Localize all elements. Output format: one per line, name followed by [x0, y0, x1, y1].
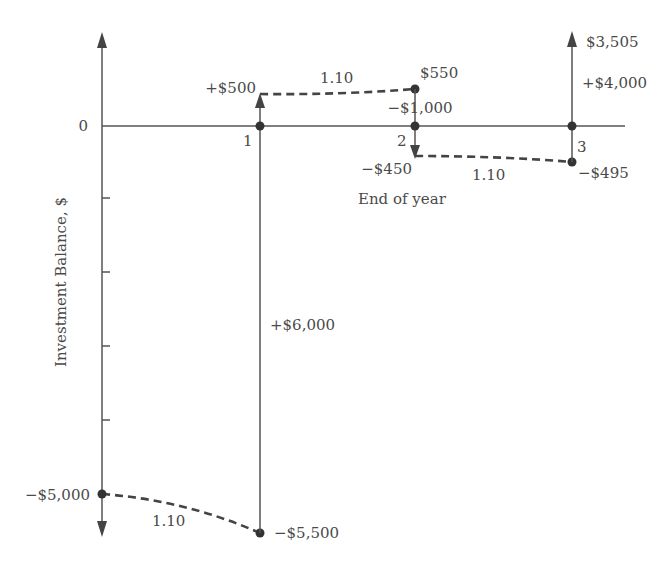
cashflow-year-2-label: −$1,000	[387, 99, 452, 117]
y-axis-up-arrow-icon	[97, 32, 107, 48]
year-3-axis-dot	[568, 122, 577, 131]
factor-year-3-label: 1.10	[472, 166, 505, 184]
start-balance-dot	[98, 490, 107, 499]
year-3-before-label: −$495	[578, 164, 629, 182]
growth-curve-year-2	[260, 89, 415, 94]
factor-year-2-label: 1.10	[320, 69, 353, 87]
balance-year-1-after-label: +$500	[205, 79, 256, 97]
cashflow-year-3-up-arrow-icon	[567, 31, 577, 47]
year-2-axis-dot	[411, 122, 420, 131]
year-2-label: 2	[397, 132, 407, 150]
cashflow-year-1-label: +$6,000	[270, 316, 335, 334]
year-1-axis-dot	[256, 122, 265, 131]
zero-label: 0	[78, 117, 88, 135]
year-3-label: 3	[577, 138, 587, 156]
investment-balance-diagram: 0 Investment Balance, $ End of year 1 2 …	[0, 0, 665, 570]
x-axis-label: End of year	[358, 190, 447, 208]
y-axis-label: Investment Balance, $	[52, 197, 70, 367]
start-balance-label: −$5,000	[25, 486, 90, 504]
year-1-before-label: −$5,500	[274, 524, 339, 542]
cashflow-year-3-label: +$4,000	[582, 74, 647, 92]
year-1-label: 1	[243, 132, 253, 150]
factor-year-1-label: 1.10	[152, 512, 185, 530]
balance-year-3-after-label: $3,505	[586, 33, 639, 51]
year-2-before-label: $550	[420, 64, 458, 82]
balance-year-2-after-label: −$450	[361, 160, 412, 178]
y-axis-ticks	[102, 198, 110, 420]
growth-curve-year-3	[415, 156, 572, 162]
y-axis-down-arrow-icon	[97, 521, 107, 537]
